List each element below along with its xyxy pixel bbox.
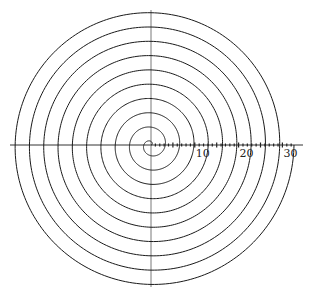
tick-labels: 10 20 30 [196, 147, 298, 160]
spiral-plot: 10 20 30 [0, 0, 309, 294]
tick-label-20: 20 [240, 147, 254, 160]
tick-label-10: 10 [196, 147, 210, 160]
tick-label-30: 30 [283, 147, 297, 160]
